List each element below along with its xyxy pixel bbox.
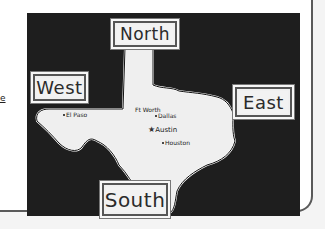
- partial-left-text: e: [0, 93, 6, 103]
- south-text: South: [105, 188, 166, 212]
- city-austin: ★Austin: [148, 125, 177, 134]
- direction-label-south: South: [100, 181, 170, 218]
- chalkboard-map: North West East South El Paso Ft Worth D…: [27, 13, 300, 216]
- city-dot-icon: [155, 115, 157, 117]
- west-text: West: [36, 77, 82, 98]
- direction-label-west: West: [31, 72, 88, 103]
- direction-label-east: East: [233, 85, 294, 119]
- east-text: East: [243, 92, 284, 113]
- direction-label-north: North: [111, 19, 179, 49]
- north-text: North: [120, 24, 170, 44]
- city-dot-icon: [63, 114, 65, 116]
- city-dallas: Dallas: [155, 112, 176, 119]
- city-el-paso: El Paso: [63, 111, 87, 118]
- city-dot-icon: [162, 142, 164, 144]
- city-houston: Houston: [162, 139, 190, 146]
